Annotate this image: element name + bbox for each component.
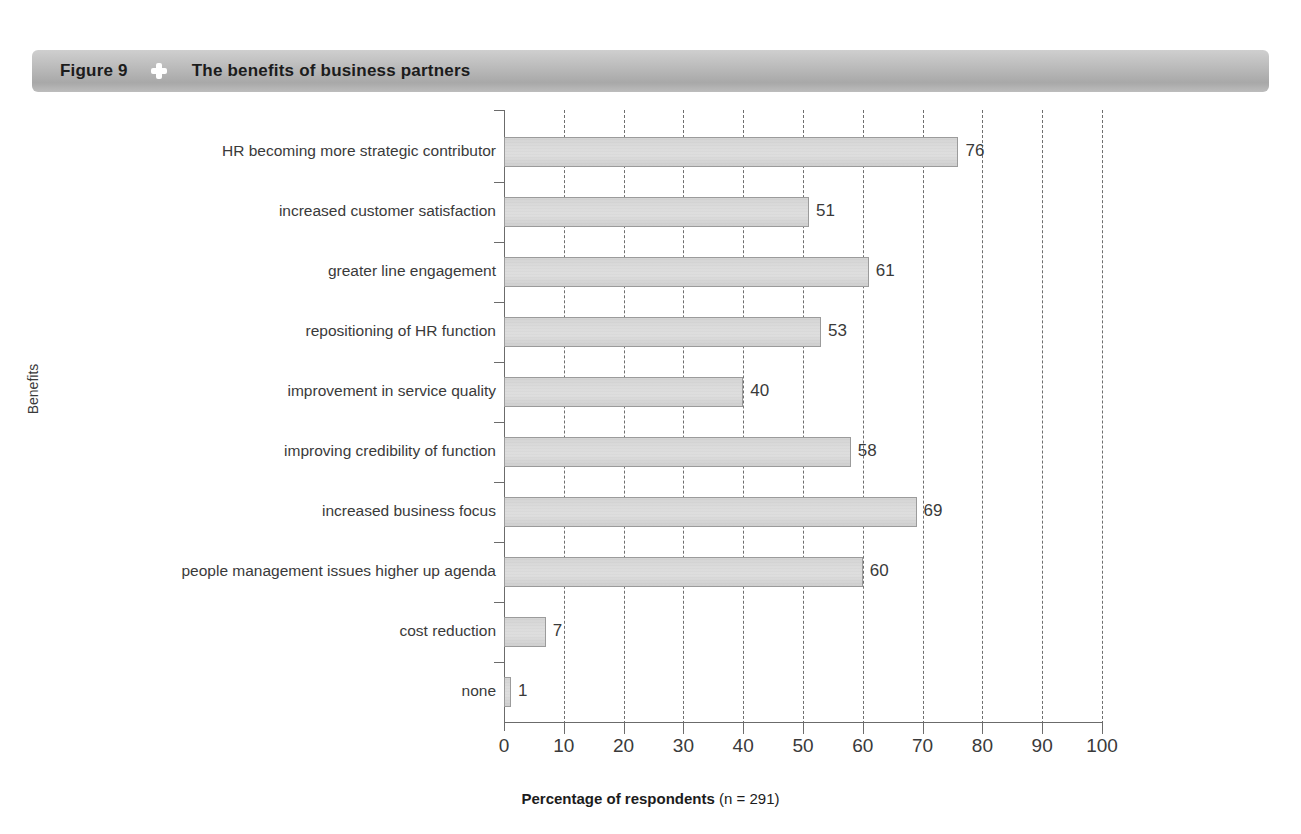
category-label: increased business focus — [26, 502, 496, 520]
x-axis-tick — [1102, 722, 1103, 731]
x-axis-title-main: Percentage of respondents — [521, 790, 714, 807]
x-axis-title-sample-size: (n = 291) — [719, 790, 779, 807]
bar-value-label: 40 — [750, 381, 769, 401]
x-axis-tick — [683, 722, 684, 731]
category-label: increased customer satisfaction — [26, 202, 496, 220]
bar-value-label: 58 — [858, 441, 877, 461]
x-axis-tick-label: 50 — [773, 735, 833, 757]
bar — [504, 437, 851, 467]
category-label: none — [26, 682, 496, 700]
category-label: improving credibility of function — [26, 442, 496, 460]
bar-value-label: 76 — [965, 141, 984, 161]
gridline — [982, 110, 983, 734]
x-axis-tick — [743, 722, 744, 731]
bar-value-label: 1 — [518, 681, 527, 701]
x-axis-tick-label: 40 — [713, 735, 773, 757]
y-axis-tick — [494, 662, 504, 663]
bar-value-label: 7 — [553, 621, 562, 641]
bar-value-label: 69 — [924, 501, 943, 521]
x-axis-tick-label: 90 — [1012, 735, 1072, 757]
x-axis-tick — [923, 722, 924, 731]
bar — [504, 497, 917, 527]
y-axis-tick — [494, 482, 504, 483]
bar — [504, 557, 863, 587]
x-axis-tick — [1042, 722, 1043, 731]
bar — [504, 137, 958, 167]
y-axis-tick — [494, 182, 504, 183]
bar-chart: Benefits HR becoming more strategic cont… — [0, 0, 1301, 834]
x-axis-tick-label: 80 — [952, 735, 1012, 757]
bar — [504, 377, 743, 407]
y-axis-tick — [494, 242, 504, 243]
y-axis-tick — [494, 422, 504, 423]
x-axis-tick — [863, 722, 864, 731]
category-label: greater line engagement — [26, 262, 496, 280]
x-axis-tick — [564, 722, 565, 731]
bar-value-label: 61 — [876, 261, 895, 281]
x-axis-tick-label: 70 — [893, 735, 953, 757]
x-axis-tick-label: 100 — [1072, 735, 1132, 757]
x-axis-tick-label: 10 — [534, 735, 594, 757]
bar — [504, 197, 809, 227]
plot-area: HR becoming more strategic contributor76… — [504, 122, 1102, 722]
y-axis-tick — [494, 602, 504, 603]
category-label: cost reduction — [26, 622, 496, 640]
x-axis-title: Percentage of respondents (n = 291) — [0, 790, 1301, 807]
y-axis-tick — [494, 302, 504, 303]
bar-value-label: 60 — [870, 561, 889, 581]
bar — [504, 617, 546, 647]
gridline — [1102, 110, 1103, 734]
bar-value-label: 53 — [828, 321, 847, 341]
y-axis-tick — [494, 362, 504, 363]
bar — [504, 317, 821, 347]
category-label: improvement in service quality — [26, 382, 496, 400]
gridline — [863, 110, 864, 734]
bar — [504, 677, 511, 707]
category-label: repositioning of HR function — [26, 322, 496, 340]
y-axis-tick — [494, 542, 504, 543]
bar-value-label: 51 — [816, 201, 835, 221]
x-axis-tick — [624, 722, 625, 731]
x-axis-tick-label: 30 — [653, 735, 713, 757]
x-axis-tick — [803, 722, 804, 731]
category-label: HR becoming more strategic contributor — [26, 142, 496, 160]
x-axis-tick-label: 60 — [833, 735, 893, 757]
x-axis-tick-label: 20 — [594, 735, 654, 757]
x-axis-tick — [982, 722, 983, 731]
category-label: people management issues higher up agend… — [26, 562, 496, 580]
bar — [504, 257, 869, 287]
y-axis-tick — [494, 110, 504, 111]
x-axis-tick — [504, 722, 505, 731]
gridline — [1042, 110, 1043, 734]
gridline — [923, 110, 924, 734]
x-axis-tick-label: 0 — [474, 735, 534, 757]
